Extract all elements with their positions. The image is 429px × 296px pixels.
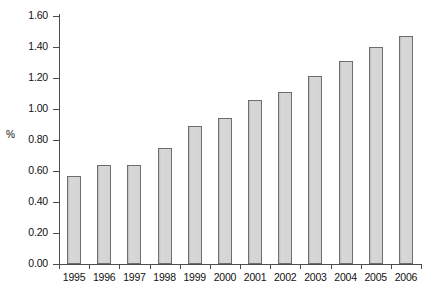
y-axis-tick-label: 0.80 (4, 134, 48, 145)
bar (248, 100, 262, 264)
y-axis-tick-label: 1.20 (4, 72, 48, 83)
x-axis-tick-label: 2000 (210, 271, 240, 283)
x-axis-tick-label: 2002 (270, 271, 300, 283)
x-axis-tick (300, 264, 301, 269)
x-axis-tick (59, 264, 60, 269)
bar-chart: % 1.601.401.201.000.800.600.400.200.00 1… (0, 0, 429, 296)
x-axis-tick (210, 264, 211, 269)
x-axis-tick (331, 264, 332, 269)
y-axis-tick-label: 0.60 (4, 165, 48, 176)
x-axis-tick-label: 1995 (59, 271, 89, 283)
y-axis-tick-label: 1.60 (4, 10, 48, 21)
x-axis-tick (89, 264, 90, 269)
bar (97, 165, 111, 264)
bar (218, 118, 232, 264)
y-axis-tick-label: 0.00 (4, 258, 48, 269)
plot-area (59, 16, 421, 264)
bar (188, 126, 202, 264)
x-axis-tick-label: 2005 (361, 271, 391, 283)
bar (158, 148, 172, 264)
y-axis-tick-label: 1.40 (4, 41, 48, 52)
x-axis-tick-label: 2003 (300, 271, 330, 283)
x-axis-tick-label: 1999 (180, 271, 210, 283)
y-axis-tick-label: 1.00 (4, 103, 48, 114)
bar (399, 36, 413, 264)
x-axis-tick (180, 264, 181, 269)
x-axis-tick-label: 1997 (119, 271, 149, 283)
x-axis-tick (150, 264, 151, 269)
x-axis-tick (119, 264, 120, 269)
bar (278, 92, 292, 264)
x-axis-tick (421, 264, 422, 269)
bar (67, 176, 81, 264)
x-axis-tick (361, 264, 362, 269)
x-axis-tick (391, 264, 392, 269)
y-axis-tick-label: 0.40 (4, 196, 48, 207)
bar (127, 165, 141, 264)
x-axis-tick-label: 2001 (240, 271, 270, 283)
x-axis-tick (240, 264, 241, 269)
bar (339, 61, 353, 264)
x-axis-tick-label: 1998 (150, 271, 180, 283)
bar (369, 47, 383, 264)
y-axis-tick-label: 0.20 (4, 227, 48, 238)
x-axis-tick-label: 1996 (89, 271, 119, 283)
x-axis-tick-label: 2004 (331, 271, 361, 283)
bar (308, 76, 322, 264)
x-axis-tick-label: 2006 (391, 271, 421, 283)
x-axis-tick (270, 264, 271, 269)
